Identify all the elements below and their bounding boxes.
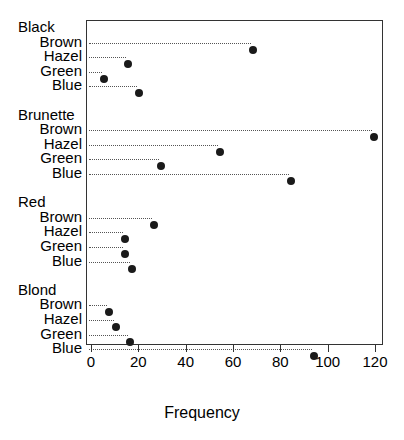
x-tick-label: 100 <box>315 354 340 370</box>
data-point <box>105 308 113 316</box>
category-label-red-blue: Blue <box>52 254 82 268</box>
data-point <box>135 89 143 97</box>
data-point <box>150 221 158 229</box>
leader-line <box>89 174 289 175</box>
data-point <box>124 60 132 68</box>
leader-line <box>89 218 152 219</box>
leader-line <box>89 130 372 131</box>
data-point <box>216 148 224 156</box>
leader-line <box>89 145 218 146</box>
data-point <box>128 265 136 273</box>
x-tick <box>186 345 187 352</box>
x-tick-label: 20 <box>130 354 147 370</box>
x-tick <box>328 345 329 352</box>
data-point <box>112 323 120 331</box>
data-point <box>121 250 129 258</box>
category-label-blond-hazel: Hazel <box>44 312 82 326</box>
leader-line <box>89 262 130 263</box>
x-tick-label: 120 <box>362 354 387 370</box>
leader-line <box>89 159 159 160</box>
category-label-brunette-blue: Blue <box>52 166 82 180</box>
category-label-blond-blue: Blue <box>52 341 82 355</box>
group-label-black: Black <box>18 20 55 34</box>
data-point <box>249 46 257 54</box>
x-tick <box>280 345 281 352</box>
x-tick-label: 60 <box>225 354 242 370</box>
x-tick <box>138 345 139 352</box>
category-label-black-blue: Blue <box>52 78 82 92</box>
x-tick <box>375 345 376 352</box>
leader-line <box>89 335 128 336</box>
x-tick-label: 80 <box>272 354 289 370</box>
x-tick <box>233 345 234 352</box>
data-point <box>100 75 108 83</box>
data-point <box>157 162 165 170</box>
category-label-red-green: Green <box>40 239 82 253</box>
data-point <box>370 133 378 141</box>
x-axis-title: Frequency <box>0 404 404 422</box>
x-axis: 020406080100120 <box>86 345 383 375</box>
x-tick-label: 0 <box>87 354 95 370</box>
leader-line <box>89 86 137 87</box>
data-point <box>121 235 129 243</box>
x-tick <box>91 345 92 352</box>
leader-line <box>89 305 107 306</box>
leader-line <box>89 247 123 248</box>
dot-chart: BlackBrownHazelGreenBlueBrunetteBrownHaz… <box>0 0 404 440</box>
leader-line <box>89 43 251 44</box>
x-tick-label: 40 <box>177 354 194 370</box>
leader-line <box>89 57 126 58</box>
leader-line <box>89 320 114 321</box>
plot-area <box>86 20 383 345</box>
data-point <box>287 177 295 185</box>
leader-line <box>89 72 102 73</box>
leader-line <box>89 232 123 233</box>
